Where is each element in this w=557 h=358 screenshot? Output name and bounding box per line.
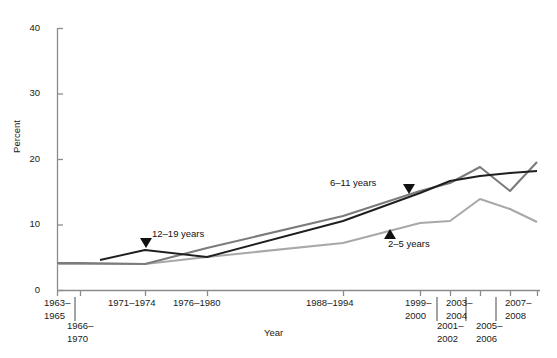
y-tick-label-10: 10 [22,218,40,229]
x-tick-label-1966-1970-line1: 1966– [67,320,93,331]
x-tick-label-2003-2004-line1: 2003– [446,297,472,308]
chart-figure: Percent 40 30 20 10 0 1963– 1965 1971–19… [0,0,557,358]
series-line-12-19-years [100,171,537,260]
x-tick-label-2007-2008-line2: 2008 [505,310,526,321]
series-label-6-11-years: 6–11 years [330,177,376,188]
x-tick-label-2001-2002-line1: 2001– [437,320,463,331]
x-axis-ticks [58,291,538,297]
x-tick-label-1976-1980: 1976–1980 [173,297,221,308]
x-tick-label-1988-1994: 1988–1994 [306,297,354,308]
y-axis-ticks [58,29,64,291]
x-tick-label-2007-2008-line1: 2007– [505,297,531,308]
x-tick-label-1963-1965-line1: 1963– [44,297,70,308]
x-tick-label-2005-2006-line1: 2005– [476,320,502,331]
x-tick-label-1999-2000-line2: 2000 [405,310,426,321]
y-tick-label-40: 40 [22,22,40,33]
x-tick-label-1963-1965-line2: 1965 [44,310,65,321]
chart-plot-area [0,0,557,358]
y-tick-label-20: 20 [22,153,40,164]
y-tick-label-30: 30 [22,87,40,98]
x-tick-label-1999-2000-line1: 1999– [405,297,431,308]
series-label-2-5-years: 2–5 years [388,238,430,249]
x-tick-label-2005-2006-line2: 2006 [476,333,497,344]
x-tick-label-2001-2002-line2: 2002 [437,333,458,344]
x-axis-title: Year [264,327,283,338]
x-tick-label-1966-1970-line2: 1970 [67,333,88,344]
y-axis-title: Percent [11,107,22,167]
pointer-12-19-years-icon [140,238,152,248]
y-tick-label-0: 0 [22,284,40,295]
x-tick-label-1971-1974: 1971–1974 [108,297,156,308]
series-label-12-19-years: 12–19 years [152,228,204,239]
